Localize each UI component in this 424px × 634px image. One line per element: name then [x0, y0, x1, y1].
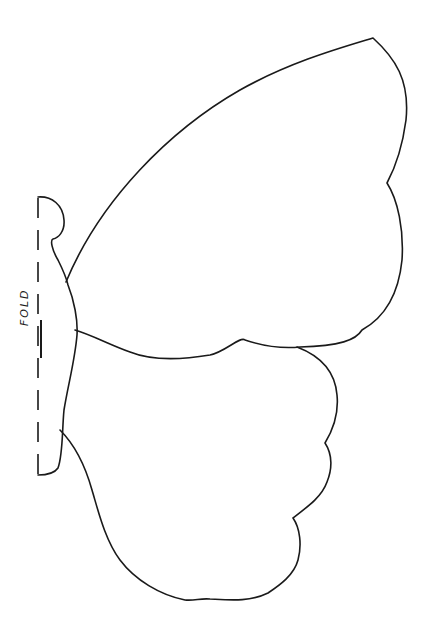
fold-label: FOLD [18, 288, 31, 326]
fold-label-underline [40, 320, 42, 358]
upper-wing-outline [66, 38, 407, 358]
lower-wing-outline [60, 347, 337, 600]
butterfly-outline-drawing [0, 0, 424, 634]
butterfly-body-outline [38, 197, 77, 475]
butterfly-template: FOLD [0, 0, 424, 634]
